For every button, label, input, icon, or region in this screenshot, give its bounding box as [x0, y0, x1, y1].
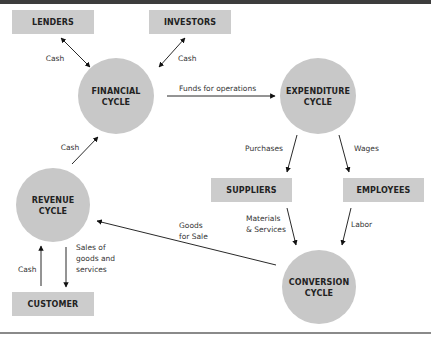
lenders-cash-label: Cash: [46, 54, 65, 63]
customer-box: CUSTOMER: [12, 292, 94, 316]
lenders-box: LENDERS: [12, 10, 94, 34]
investors-box: INVESTORS: [149, 10, 231, 34]
employees-box: EMPLOYEES: [343, 178, 424, 202]
financial-cycle-label-1: FINANCIAL: [91, 87, 140, 96]
goods-for-sale-label-1: Goods: [179, 221, 203, 230]
expenditure-cycle-label-1: EXPENDITURE: [286, 87, 350, 96]
labor-label: Labor: [351, 220, 373, 229]
materials-arrow: [287, 208, 296, 245]
revenue-cycle-label-2: CYCLE: [39, 207, 67, 216]
revenue-cycle: REVENUE CYCLE: [16, 168, 90, 242]
financial-cycle-label-2: CYCLE: [102, 98, 130, 107]
materials-label-1: Materials: [246, 214, 280, 223]
wages-arrow: [339, 135, 349, 172]
funds-for-operations-label: Funds for operations: [179, 84, 256, 93]
lenders-label: LENDERS: [32, 18, 74, 27]
investors-cash-label: Cash: [178, 54, 197, 63]
conversion-cycle-label-2: CYCLE: [305, 289, 333, 298]
sales-label-3: services: [76, 265, 107, 274]
materials-label-2: & Services: [246, 225, 286, 234]
suppliers-label: SUPPLIERS: [226, 186, 276, 195]
sales-label-2: goods and: [76, 254, 115, 263]
labor-arrow: [342, 208, 351, 245]
customer-cash-label: Cash: [18, 265, 37, 274]
goods-for-sale-label-2: for Sale: [179, 232, 208, 241]
conversion-cycle: CONVERSION CYCLE: [282, 250, 356, 324]
bottom-divider: [0, 332, 431, 334]
wages-label: Wages: [354, 144, 379, 153]
customer-label: CUSTOMER: [28, 300, 79, 309]
business-cycles-diagram: LENDERS INVESTORS SUPPLIERS EMPLOYEES CU…: [0, 0, 431, 337]
purchases-arrow: [287, 135, 297, 172]
lenders-financial-arrow: [61, 38, 90, 67]
employees-label: EMPLOYEES: [356, 186, 410, 195]
revenue-cycle-label-1: REVENUE: [32, 196, 75, 205]
expenditure-cycle-label-2: CYCLE: [304, 98, 332, 107]
suppliers-box: SUPPLIERS: [211, 178, 292, 202]
sales-label-1: Sales of: [76, 243, 106, 252]
financial-cycle: FINANCIAL CYCLE: [78, 58, 154, 134]
revenue-cash-label: Cash: [61, 143, 80, 152]
investors-label: INVESTORS: [164, 18, 216, 27]
purchases-label: Purchases: [245, 144, 283, 153]
conversion-cycle-label-1: CONVERSION: [289, 278, 349, 287]
expenditure-cycle: EXPENDITURE CYCLE: [280, 58, 356, 134]
